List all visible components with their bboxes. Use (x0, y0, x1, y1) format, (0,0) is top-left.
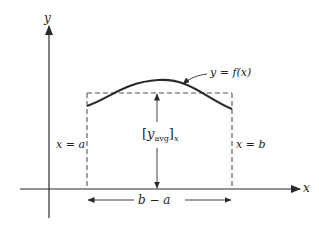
x-axis-label: x (303, 181, 310, 195)
width-label: b − a (138, 193, 171, 207)
average-value-label: [yavg]x (142, 126, 178, 143)
curve-label-pointer (183, 74, 207, 84)
average-value-diagram: y x y = f(x) x = a x = b b − a [yavg]x (0, 0, 319, 226)
avg-subscript: avg (154, 134, 168, 143)
curve-label: y = f(x) (210, 66, 251, 79)
left-bound-label: x = a (56, 138, 85, 151)
avg-outer-subscript: x (174, 134, 179, 143)
right-bound-label: x = b (236, 138, 265, 151)
function-curve (87, 80, 232, 109)
y-axis-label: y (44, 11, 51, 25)
